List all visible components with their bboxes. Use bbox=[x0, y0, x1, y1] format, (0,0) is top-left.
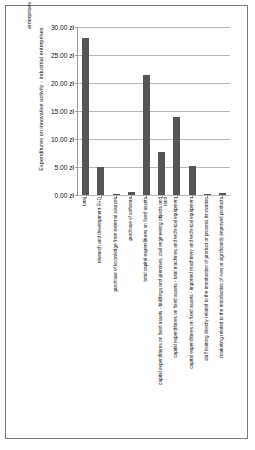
x-label-slot: purchase of software bbox=[123, 197, 138, 397]
chart-container: Expenditures on innovative activity - in… bbox=[15, 15, 239, 390]
y-axis-title: Expenditures on innovative activity - in… bbox=[35, 4, 47, 194]
bar-slot bbox=[108, 27, 123, 195]
x-label-slot: research and development R+D bbox=[92, 197, 107, 397]
bar[interactable] bbox=[82, 38, 89, 195]
x-label-slot: purchase of knowledge from external sour… bbox=[107, 197, 122, 397]
plot-area: 30.00 zł25.00 zł20.00 zł15.00 zł10.00 zł… bbox=[77, 27, 230, 196]
y-tick-label: 15.00 zł bbox=[51, 108, 74, 115]
x-label-slot: total capital expenditures on fixed asse… bbox=[138, 197, 153, 397]
x-axis-category-label: capital expenditures on fixed assets - t… bbox=[173, 197, 178, 393]
bar[interactable] bbox=[158, 152, 165, 195]
bar-slot bbox=[200, 27, 215, 195]
x-label-slot: staff training directly related to the i… bbox=[199, 197, 214, 397]
y-tick-label: 5.00 zł bbox=[55, 164, 74, 171]
x-axis-category-label: marketing related to the introduction of… bbox=[219, 197, 224, 393]
bar-slot bbox=[93, 27, 108, 195]
bar[interactable] bbox=[143, 75, 150, 195]
x-axis-category-label: purchase of knowledge from external sour… bbox=[113, 197, 118, 393]
x-label-slot: marketing related to the introduction of… bbox=[214, 197, 229, 397]
bar-slot bbox=[78, 27, 93, 195]
x-axis-category-label: research and development R+D bbox=[97, 197, 102, 393]
x-label-slot: total bbox=[77, 197, 92, 397]
x-axis-category-label: staff training directly related to the i… bbox=[204, 197, 209, 393]
y-tick-label: 20.00 zł bbox=[51, 80, 74, 87]
x-axis-category-label: total capital expenditures on fixed asse… bbox=[143, 197, 148, 393]
bar-slot bbox=[184, 27, 199, 195]
y-axis-title-overlap: enterprises bbox=[24, 2, 34, 54]
bar-slot bbox=[124, 27, 139, 195]
y-tick-mark bbox=[75, 195, 78, 196]
bar-series bbox=[78, 27, 230, 195]
bar-slot bbox=[139, 27, 154, 195]
bar[interactable] bbox=[97, 167, 104, 195]
chart-frame: Expenditures on innovative activity - in… bbox=[5, 5, 248, 439]
y-tick-label: 10.00 zł bbox=[51, 136, 74, 143]
x-axis-category-label: capital expenditures on fixed assets - i… bbox=[189, 197, 194, 393]
bar[interactable] bbox=[173, 117, 180, 195]
x-label-slot: capital expenditures on fixed assets - i… bbox=[183, 197, 198, 397]
bar-slot bbox=[169, 27, 184, 195]
bar-slot bbox=[215, 27, 230, 195]
x-axis-category-label: total bbox=[82, 197, 87, 393]
x-axis-category-label: purchase of software bbox=[128, 197, 133, 393]
y-tick-label: 25.00 zł bbox=[51, 52, 74, 59]
bar[interactable] bbox=[189, 166, 196, 195]
y-tick-label: 0.00 zł bbox=[55, 192, 74, 199]
x-axis-labels: totalresearch and development R+Dpurchas… bbox=[77, 197, 229, 397]
x-label-slot: capital expenditures on fixed assets - t… bbox=[168, 197, 183, 397]
x-label-slot: capital expenditures on fixed assets - b… bbox=[153, 197, 168, 397]
y-tick-label: 30.00 zł bbox=[51, 24, 74, 31]
bar-slot bbox=[154, 27, 169, 195]
